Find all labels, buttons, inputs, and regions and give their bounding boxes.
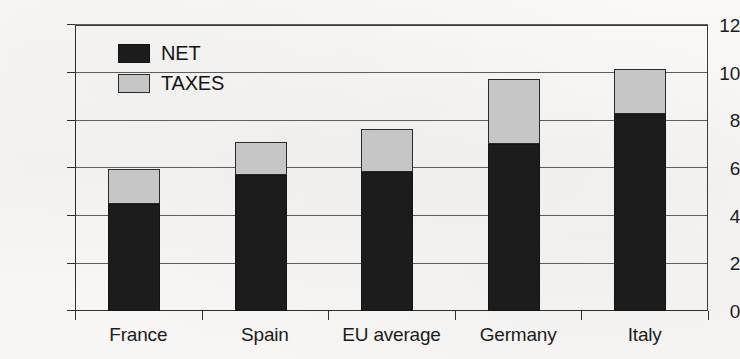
x-tick-label-germany: Germany xyxy=(455,325,582,344)
bar-segment-taxes[interactable] xyxy=(108,169,160,204)
y-tick-mark xyxy=(67,310,75,311)
bar-eu-average[interactable] xyxy=(361,129,413,311)
x-tick-label-italy: Italy xyxy=(581,325,708,344)
bar-spain[interactable] xyxy=(235,142,287,311)
x-tick-mark xyxy=(581,311,582,320)
chart-screenshot: 024681012 FranceSpainEU averageGermanyIt… xyxy=(0,0,740,359)
chart-legend: NETTAXES xyxy=(118,38,224,98)
x-tick-mark xyxy=(75,311,76,320)
bar-segment-taxes[interactable] xyxy=(361,129,413,172)
legend-item-taxes[interactable]: TAXES xyxy=(118,68,224,98)
bar-segment-net[interactable] xyxy=(614,114,666,311)
x-tick-mark xyxy=(328,311,329,320)
stacked-bar-chart: 024681012 FranceSpainEU averageGermanyIt… xyxy=(0,0,740,359)
bar-germany[interactable] xyxy=(488,79,540,311)
y-tick-mark xyxy=(67,263,75,264)
bar-segment-taxes[interactable] xyxy=(488,79,540,145)
y-tick-mark xyxy=(67,215,75,216)
black-square-swatch xyxy=(118,44,150,63)
bar-segment-net[interactable] xyxy=(108,204,160,311)
bar-italy[interactable] xyxy=(614,69,666,311)
gray-square-swatch xyxy=(118,74,150,93)
x-tick-mark xyxy=(455,311,456,320)
bar-france[interactable] xyxy=(108,169,160,311)
bar-segment-net[interactable] xyxy=(488,144,540,311)
x-tick-mark xyxy=(708,311,709,320)
x-tick-label-spain: Spain xyxy=(202,325,329,344)
legend-label: NET xyxy=(161,43,200,63)
bar-segment-net[interactable] xyxy=(235,175,287,311)
y-tick-mark xyxy=(67,167,75,168)
bar-segment-taxes[interactable] xyxy=(614,69,666,114)
x-tick-mark xyxy=(202,311,203,320)
bar-segment-taxes[interactable] xyxy=(235,142,287,175)
y-tick-mark xyxy=(67,24,75,25)
x-tick-label-eu-average: EU average xyxy=(328,325,455,344)
x-tick-label-france: France xyxy=(75,325,202,344)
bar-segment-net[interactable] xyxy=(361,172,413,311)
y-tick-mark xyxy=(67,120,75,121)
legend-label: TAXES xyxy=(161,73,224,93)
y-tick-mark xyxy=(67,72,75,73)
legend-item-net[interactable]: NET xyxy=(118,38,224,68)
